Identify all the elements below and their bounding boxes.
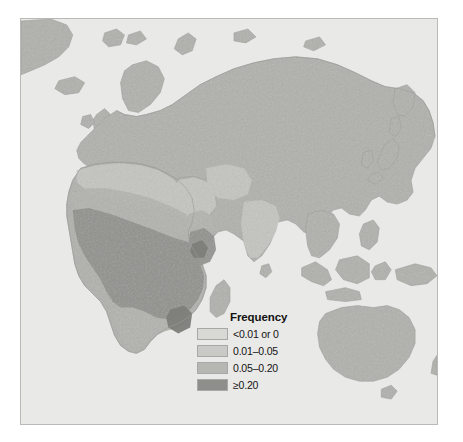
legend-title: Frequency [230, 311, 319, 323]
legend-row: 0.01–0.05 [197, 343, 319, 359]
legend-swatch-class-3 [197, 379, 228, 391]
legend-swatch-class-2 [197, 362, 228, 374]
legend-label-class-3: ≥0.20 [233, 379, 258, 391]
map-plate: Frequency <0.01 or 0 0.01–0.05 0.05–0.20… [20, 18, 438, 425]
legend-row: 0.05–0.20 [197, 360, 319, 376]
legend-label-class-0: <0.01 or 0 [233, 328, 279, 340]
legend-swatch-class-0 [197, 328, 228, 340]
map-legend: Frequency <0.01 or 0 0.01–0.05 0.05–0.20… [197, 311, 319, 394]
legend-label-class-1: 0.01–0.05 [233, 345, 278, 357]
legend-row: ≥0.20 [197, 377, 319, 393]
legend-label-class-2: 0.05–0.20 [233, 362, 278, 374]
figure-root: Frequency <0.01 or 0 0.01–0.05 0.05–0.20… [0, 0, 463, 442]
legend-row: <0.01 or 0 [197, 326, 319, 342]
legend-swatch-class-1 [197, 345, 228, 357]
